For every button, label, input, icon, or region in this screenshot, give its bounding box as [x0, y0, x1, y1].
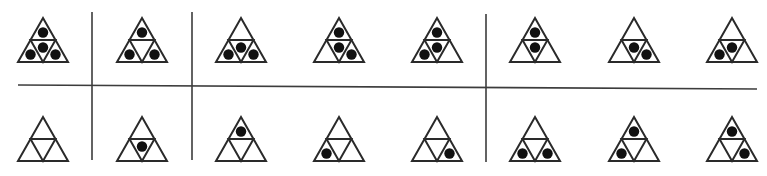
bottom-row-triangle-8: [707, 117, 757, 161]
dot-left: [616, 148, 626, 158]
dot-left: [223, 49, 233, 59]
dot-center: [236, 42, 246, 52]
horizontal-divider: [18, 85, 757, 89]
dot-center: [137, 141, 147, 151]
dot-top: [432, 27, 442, 37]
dot-right: [641, 49, 651, 59]
dot-top: [137, 27, 147, 37]
dot-left: [25, 49, 35, 59]
dot-top: [629, 126, 639, 136]
dot-center: [334, 42, 344, 52]
top-row-triangle-8: [707, 18, 757, 62]
dot-right: [542, 148, 552, 158]
triangle-dot-diagram: [0, 0, 767, 176]
dot-left: [517, 148, 527, 158]
triangle-grid: [18, 18, 757, 161]
dot-top: [236, 126, 246, 136]
top-row-triangle-7: [609, 18, 659, 62]
dot-right: [149, 49, 159, 59]
dot-top: [334, 27, 344, 37]
top-row-triangle-3: [216, 18, 266, 62]
top-row-triangle-5: [412, 18, 462, 62]
dot-left: [419, 49, 429, 59]
top-row-triangle-4: [314, 18, 364, 62]
dot-top: [38, 27, 48, 37]
dot-right: [50, 49, 60, 59]
top-row-triangle-1: [18, 18, 68, 62]
dot-center: [530, 42, 540, 52]
dot-top: [727, 126, 737, 136]
dot-right: [346, 49, 356, 59]
dot-right: [739, 148, 749, 158]
bottom-row-triangle-5: [412, 117, 462, 161]
bottom-row-triangle-4: [314, 117, 364, 161]
top-row-triangle-2: [117, 18, 167, 62]
dot-top: [530, 27, 540, 37]
top-row-triangle-6: [510, 18, 560, 62]
dot-center: [432, 42, 442, 52]
dot-left: [321, 148, 331, 158]
dot-center: [629, 42, 639, 52]
dot-right: [248, 49, 258, 59]
dot-right: [444, 148, 454, 158]
diagram-canvas: [0, 0, 767, 176]
dot-center: [727, 42, 737, 52]
dot-left: [124, 49, 134, 59]
bottom-row-triangle-1: [18, 117, 68, 161]
bottom-row-triangle-6: [510, 117, 560, 161]
dot-center: [38, 42, 48, 52]
bottom-row-triangle-3: [216, 117, 266, 161]
bottom-row-triangle-7: [609, 117, 659, 161]
bottom-row-triangle-2: [117, 117, 167, 161]
dot-left: [714, 49, 724, 59]
